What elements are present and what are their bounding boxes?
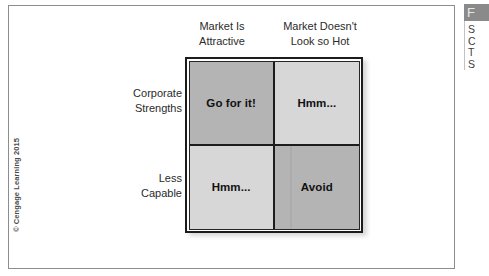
quadrant-hmm-bottom-left: Hmm... [190,146,273,228]
side-panel-line: S [468,24,489,36]
cropped-side-panel: F S C T S [464,0,489,70]
row-label-line1: Less [110,171,182,186]
side-panel-line: C [468,36,489,48]
row-label-line2: Strengths [110,101,182,116]
copyright-credit: © Cengage Learning 2015 [10,135,24,235]
quadrant-hmm-top-right: Hmm... [275,62,358,144]
column-header-market-attractive: Market Is Attractive [180,19,264,49]
row-label-line2: Capable [110,186,182,201]
side-panel-body: S C T S [464,21,489,70]
two-by-two-matrix: Go for it! Hmm... Hmm... Avoid [185,57,363,233]
side-panel-line: T [468,47,489,59]
row-label-less-capable: Less Capable [110,171,182,201]
column-header-line1: Market Doesn't [268,19,372,34]
column-header-line2: Look so Hot [268,34,372,49]
side-panel-line: S [468,59,489,71]
column-header-line2: Attractive [180,34,264,49]
matrix-grid: Go for it! Hmm... Hmm... Avoid [189,61,360,230]
quadrant-label: Avoid [301,181,333,193]
quadrant-label: Hmm... [297,97,336,109]
quadrant-label: Hmm... [212,181,251,193]
quadrant-avoid: Avoid [275,146,358,228]
side-panel-header: F [464,4,489,21]
quadrant-label: Go for it! [206,97,256,109]
quadrant-go-for-it: Go for it! [190,62,273,144]
column-header-market-not-hot: Market Doesn't Look so Hot [268,19,372,49]
row-label-corporate-strengths: Corporate Strengths [110,86,182,116]
row-label-line1: Corporate [110,86,182,101]
column-header-line1: Market Is [180,19,264,34]
